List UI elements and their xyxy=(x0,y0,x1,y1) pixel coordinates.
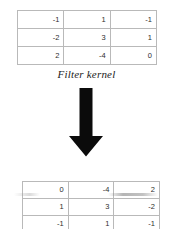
kernel-cell-r1c2: 1 xyxy=(110,29,156,47)
result-cell-r1c2: -2 xyxy=(114,199,160,216)
kernel-cell-r1c0: -2 xyxy=(18,29,64,47)
table-row: 0 -4 2 xyxy=(23,182,160,199)
result-cell-r1c1: 3 xyxy=(68,199,114,216)
arrow-down-icon xyxy=(66,88,106,157)
result-cell-r0c0: 0 xyxy=(23,182,69,199)
result-cell-r0c1: -4 xyxy=(68,182,114,199)
kernel-cell-r0c1: 1 xyxy=(64,11,110,29)
table-row: -1 1 -1 xyxy=(23,216,160,230)
flipped-kernel-matrix: 0 -4 2 1 3 -2 -1 1 -1 xyxy=(22,181,160,229)
result-cell-r2c2: -1 xyxy=(114,216,160,230)
result-cell-r0c2: 2 xyxy=(114,182,160,199)
kernel-cell-r2c2: 0 xyxy=(110,47,156,65)
table-row: 1 3 -2 xyxy=(23,199,160,216)
kernel-cell-r1c1: 3 xyxy=(64,29,110,47)
kernel-cell-r2c0: 2 xyxy=(18,47,64,65)
result-cell-r2c1: 1 xyxy=(68,216,114,230)
filter-kernel-matrix: -1 1 -1 -2 3 1 2 -4 0 xyxy=(17,10,157,65)
table-row: 2 -4 0 xyxy=(18,47,157,65)
kernel-cell-r0c2: -1 xyxy=(110,11,156,29)
kernel-cell-r2c1: -4 xyxy=(64,47,110,65)
figure-caption: Filter kernel xyxy=(0,68,173,80)
table-row: -1 1 -1 xyxy=(18,11,157,29)
table-row: -2 3 1 xyxy=(18,29,157,47)
kernel-cell-r0c0: -1 xyxy=(18,11,64,29)
result-cell-r2c0: -1 xyxy=(23,216,69,230)
result-cell-r1c0: 1 xyxy=(23,199,69,216)
